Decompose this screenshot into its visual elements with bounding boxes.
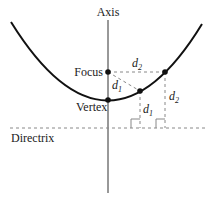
d1-diagonal-label: d1	[112, 78, 122, 94]
d1-vertical-label: d1	[143, 102, 153, 118]
curve-point-2	[162, 69, 168, 75]
directrix-label: Directrix	[11, 131, 54, 145]
d2-right-label: d2	[169, 89, 179, 105]
focus-point	[105, 69, 111, 75]
right-angle-marker-2	[156, 119, 165, 128]
right-angle-marker-1	[131, 119, 140, 128]
d2-top-label: d2	[132, 56, 142, 72]
focus-label: Focus	[74, 65, 103, 79]
axis-label: Axis	[97, 5, 120, 19]
parabola-diagram: Axis Focus Vertex Directrix d2 d2 d1 d1	[0, 0, 209, 201]
vertex-label: Vertex	[76, 100, 107, 114]
curve-point-1	[137, 88, 143, 94]
